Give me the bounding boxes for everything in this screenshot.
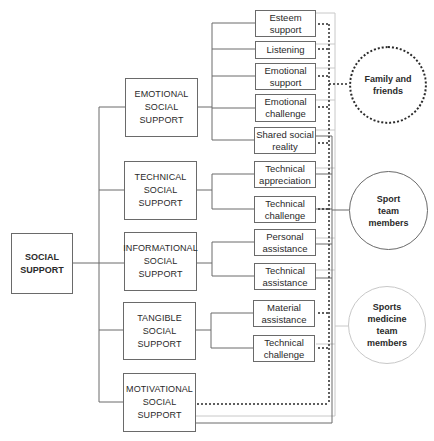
provider-label: Sports medicine team members	[367, 301, 407, 349]
leaf-shared-social-reality: Shared social reality	[254, 127, 316, 154]
leaf-personal-assistance: Personal assistance	[254, 229, 316, 256]
leaf-label: Technical assistance	[263, 265, 308, 289]
leaf-esteem-support: Esteem support	[255, 10, 316, 37]
category-label: INFORMATIONAL SOCIAL SUPPORT	[123, 242, 198, 281]
category-tangible: TANGIBLE SOCIAL SUPPORT	[123, 302, 196, 360]
leaf-label: Listening	[266, 44, 304, 56]
category-informational: INFORMATIONAL SOCIAL SUPPORT	[124, 232, 197, 291]
provider-label: Sport team members	[368, 193, 408, 229]
leaf-label: Emotional support	[264, 65, 306, 89]
root-label: SOCIAL SUPPORT	[20, 251, 64, 277]
category-label: TANGIBLE SOCIAL SUPPORT	[137, 312, 182, 351]
leaf-label: Technical appreciation	[259, 163, 311, 187]
leaf-label: Emotional challenge	[264, 96, 306, 120]
category-label: MOTIVATIONAL SOCIAL SUPPORT	[126, 383, 193, 422]
leaf-emotional-support: Emotional support	[255, 63, 316, 90]
leaf-material-assistance: Material assistance	[253, 300, 315, 327]
leaf-label: Technical challenge	[265, 198, 306, 222]
leaf-technical-assistance: Technical assistance	[254, 263, 316, 290]
provider-sports-medicine-team-members: Sports medicine team members	[348, 286, 426, 364]
provider-family-and-friends: Family and friends	[349, 46, 427, 124]
leaf-technical-appreciation: Technical appreciation	[254, 161, 316, 188]
provider-label: Family and friends	[364, 73, 411, 97]
leaf-label: Personal assistance	[263, 231, 308, 255]
category-label: EMOTIONAL SOCIAL SUPPORT	[135, 88, 189, 127]
leaf-label: Material assistance	[262, 302, 307, 326]
leaf-label: Technical challenge	[264, 337, 305, 361]
category-motivational: MOTIVATIONAL SOCIAL SUPPORT	[123, 373, 196, 432]
leaf-listening: Listening	[255, 41, 316, 59]
root-node-social-support: SOCIAL SUPPORT	[11, 233, 73, 294]
leaf-emotional-challenge: Emotional challenge	[255, 94, 316, 122]
leaf-technical-challenge-tangible: Technical challenge	[253, 335, 315, 362]
category-technical: TECHNICAL SOCIAL SUPPORT	[124, 161, 197, 220]
category-label: TECHNICAL SOCIAL SUPPORT	[135, 171, 187, 210]
provider-sport-team-members: Sport team members	[349, 171, 428, 250]
category-emotional: EMOTIONAL SOCIAL SUPPORT	[125, 78, 198, 137]
leaf-technical-challenge: Technical challenge	[254, 196, 316, 223]
leaf-label: Shared social reality	[256, 129, 314, 153]
leaf-label: Esteem support	[269, 12, 301, 36]
